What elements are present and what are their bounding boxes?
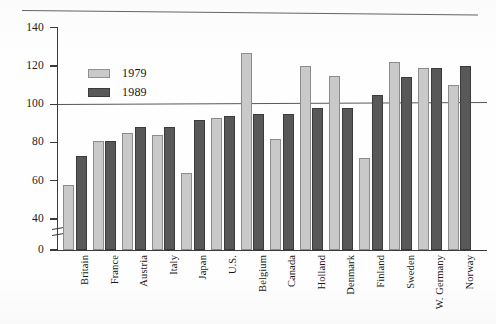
bar-denmark-1989 xyxy=(342,108,353,250)
legend-label-1979: 1979 xyxy=(122,66,147,81)
bar-france-1979 xyxy=(93,141,104,250)
bar-japan-1979 xyxy=(181,173,192,250)
x-label-sweden: Sweden xyxy=(406,255,417,289)
x-label-canada: Canada xyxy=(287,255,298,287)
bar-italy-1979 xyxy=(152,135,163,250)
y-tick-label-120: 120 xyxy=(0,60,44,72)
plot-area: 0406080100120140 BritainFranceAustriaIta… xyxy=(0,0,496,324)
bar-canada-1989 xyxy=(283,114,294,250)
y-tick-label-0: 0 xyxy=(0,244,44,256)
x-label-denmark: Denmark xyxy=(346,255,357,295)
bar-w-germany-1979 xyxy=(418,68,429,250)
bar-norway-1989 xyxy=(460,66,471,250)
bar-canada-1979 xyxy=(270,139,281,250)
x-label-belgium: Belgium xyxy=(258,255,269,292)
x-label-finland: Finland xyxy=(376,255,387,288)
bar-norway-1979 xyxy=(448,85,459,250)
x-label-austria: Austria xyxy=(139,255,150,287)
bar-austria-1989 xyxy=(135,127,146,250)
x-label-france: France xyxy=(110,255,121,284)
x-label-holland: Holland xyxy=(317,255,328,290)
bar-sweden-1979 xyxy=(389,62,400,250)
bar-austria-1979 xyxy=(122,133,133,250)
y-tick-label-140: 140 xyxy=(0,22,44,34)
bar-italy-1989 xyxy=(164,127,175,250)
bar-finland-1979 xyxy=(359,158,370,250)
bar-france-1989 xyxy=(105,141,116,250)
x-axis-line xyxy=(57,250,487,251)
x-label-u-s: U.S. xyxy=(228,255,239,274)
chart-page: 0406080100120140 BritainFranceAustriaIta… xyxy=(0,0,496,324)
x-label-italy: Italy xyxy=(169,255,180,275)
bar-denmark-1979 xyxy=(329,76,340,250)
legend-label-1989: 1989 xyxy=(122,85,147,100)
bar-japan-1989 xyxy=(194,120,205,250)
bar-belgium-1979 xyxy=(241,53,252,250)
bar-series-container xyxy=(57,0,487,250)
bar-u-s-1979 xyxy=(211,118,222,250)
legend-swatch-1989 xyxy=(88,88,110,97)
bar-finland-1989 xyxy=(372,95,383,250)
y-tick-label-40: 40 xyxy=(0,213,44,225)
bar-belgium-1989 xyxy=(253,114,264,250)
x-label-britain: Britain xyxy=(80,255,91,285)
x-label-japan: Japan xyxy=(198,255,209,279)
legend-swatch-1979 xyxy=(88,69,110,78)
bar-holland-1979 xyxy=(300,66,311,250)
y-tick-label-60: 60 xyxy=(0,175,44,187)
bar-britain-1989 xyxy=(76,156,87,250)
bar-britain-1979 xyxy=(63,185,74,250)
x-label-w-germany: W. Germany xyxy=(435,255,446,309)
x-label-norway: Norway xyxy=(465,255,476,289)
y-tick-label-100: 100 xyxy=(0,98,44,110)
bar-sweden-1989 xyxy=(401,77,412,250)
y-tick-label-80: 80 xyxy=(0,136,44,148)
bar-u-s-1989 xyxy=(224,116,235,250)
bar-holland-1989 xyxy=(312,108,323,250)
bar-w-germany-1989 xyxy=(431,68,442,250)
